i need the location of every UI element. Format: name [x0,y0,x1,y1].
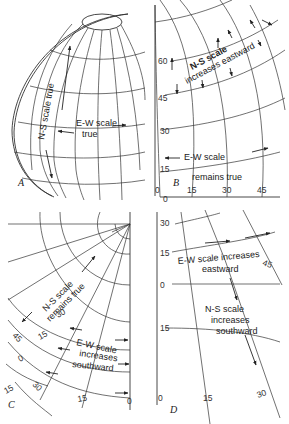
map-projection-diagram: N-S scale true E-W scale true A 60 45 30… [0,0,289,424]
lon-tick: 45 [257,185,267,195]
panel-d-ns-label-3: southward [216,326,258,336]
lon-tick: 45 [261,257,274,270]
ns-arrow-down [46,150,52,178]
ns-arrow-up [62,46,70,110]
panel-d-ns-label-1: N-S scale [205,304,244,314]
panel-d-letter: D [169,404,178,415]
panel-b-ew-label-1: E-W scale [184,152,225,162]
lon-tick: 30 [222,185,232,195]
lat-tick: 60 [158,56,168,66]
panel-b-ew-label-2: remains true [192,172,242,182]
lon-tick: 0 [158,393,163,403]
lon-tick: 15 [187,185,197,195]
panel-b-letter: B [173,177,179,188]
lon-tick: 15 [203,393,213,403]
panel-a-ew-label-1: E-W scale [76,118,117,128]
lat-tick: 15 [36,328,49,342]
panel-c: 30 15 0 15 45 30 15 0 N-S scale remains … [2,212,132,416]
panel-b: 60 45 30 15 0 0 15 30 45 N-S scale incre… [155,0,285,204]
panel-a-globe: N-S scale true E-W scale true A [12,14,145,200]
lat-tick: 45 [158,93,168,103]
lon-tick: 15 [77,392,88,404]
lon-tick: 45 [11,330,25,344]
panel-d-ns-label-2: increases [211,315,250,325]
lat-tick: 30 [160,126,170,136]
lat-tick: 15 [160,323,170,333]
lat-tick: 0 [163,194,168,204]
ew-arrow-left [58,131,74,133]
lat-tick: 15 [160,164,170,174]
panel-a-ns-label: N-S scale true [36,82,56,140]
lat-tick: 30 [160,218,170,228]
panel-d-ew-label-2: eastward [202,264,239,274]
panel-c-letter: C [8,399,15,410]
lat-tick: 0 [160,280,165,290]
lon-tick: 0 [155,185,160,195]
panel-a-letter: A [17,177,25,188]
panel-d: 30 15 0 15 0 15 30 45 E-W scale increase… [157,210,282,424]
lon-tick: 30 [255,387,268,400]
polar-cap [82,14,122,30]
globe-outline [12,14,128,196]
lon-tick: 0 [127,396,132,406]
lon-tick: 30 [31,379,45,393]
lat-tick: 15 [160,248,170,258]
lat-tick: 15 [2,382,15,396]
panel-a-ew-label-2: true [82,129,98,139]
